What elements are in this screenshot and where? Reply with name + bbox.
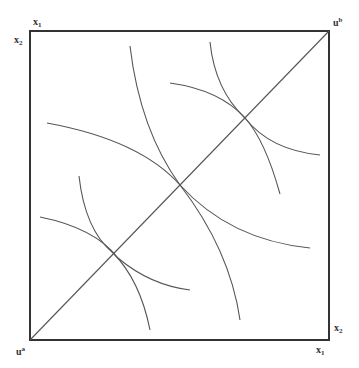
label-bottom-right-good2: x2: [334, 322, 343, 335]
label-origin-a: ua: [16, 345, 26, 357]
label-top-left-good2: x2: [14, 34, 23, 47]
indifference-curve-ub-mid-concave: [130, 46, 240, 320]
indifference-curve-ub-high-concave: [210, 42, 280, 194]
edgeworth-box-diagram: x1 x2 ub ua x2 x1: [0, 0, 359, 368]
contract-curve: [30, 31, 329, 340]
label-top-left-good1: x1: [33, 16, 42, 29]
indifference-curve-ua-low-convex: [40, 217, 190, 290]
indifference-curve-ua-mid-convex: [47, 123, 310, 248]
indifference-curve-ua-high-convex: [170, 83, 320, 155]
label-origin-b: ub: [333, 16, 343, 28]
label-bottom-right-good1: x1: [316, 344, 325, 357]
